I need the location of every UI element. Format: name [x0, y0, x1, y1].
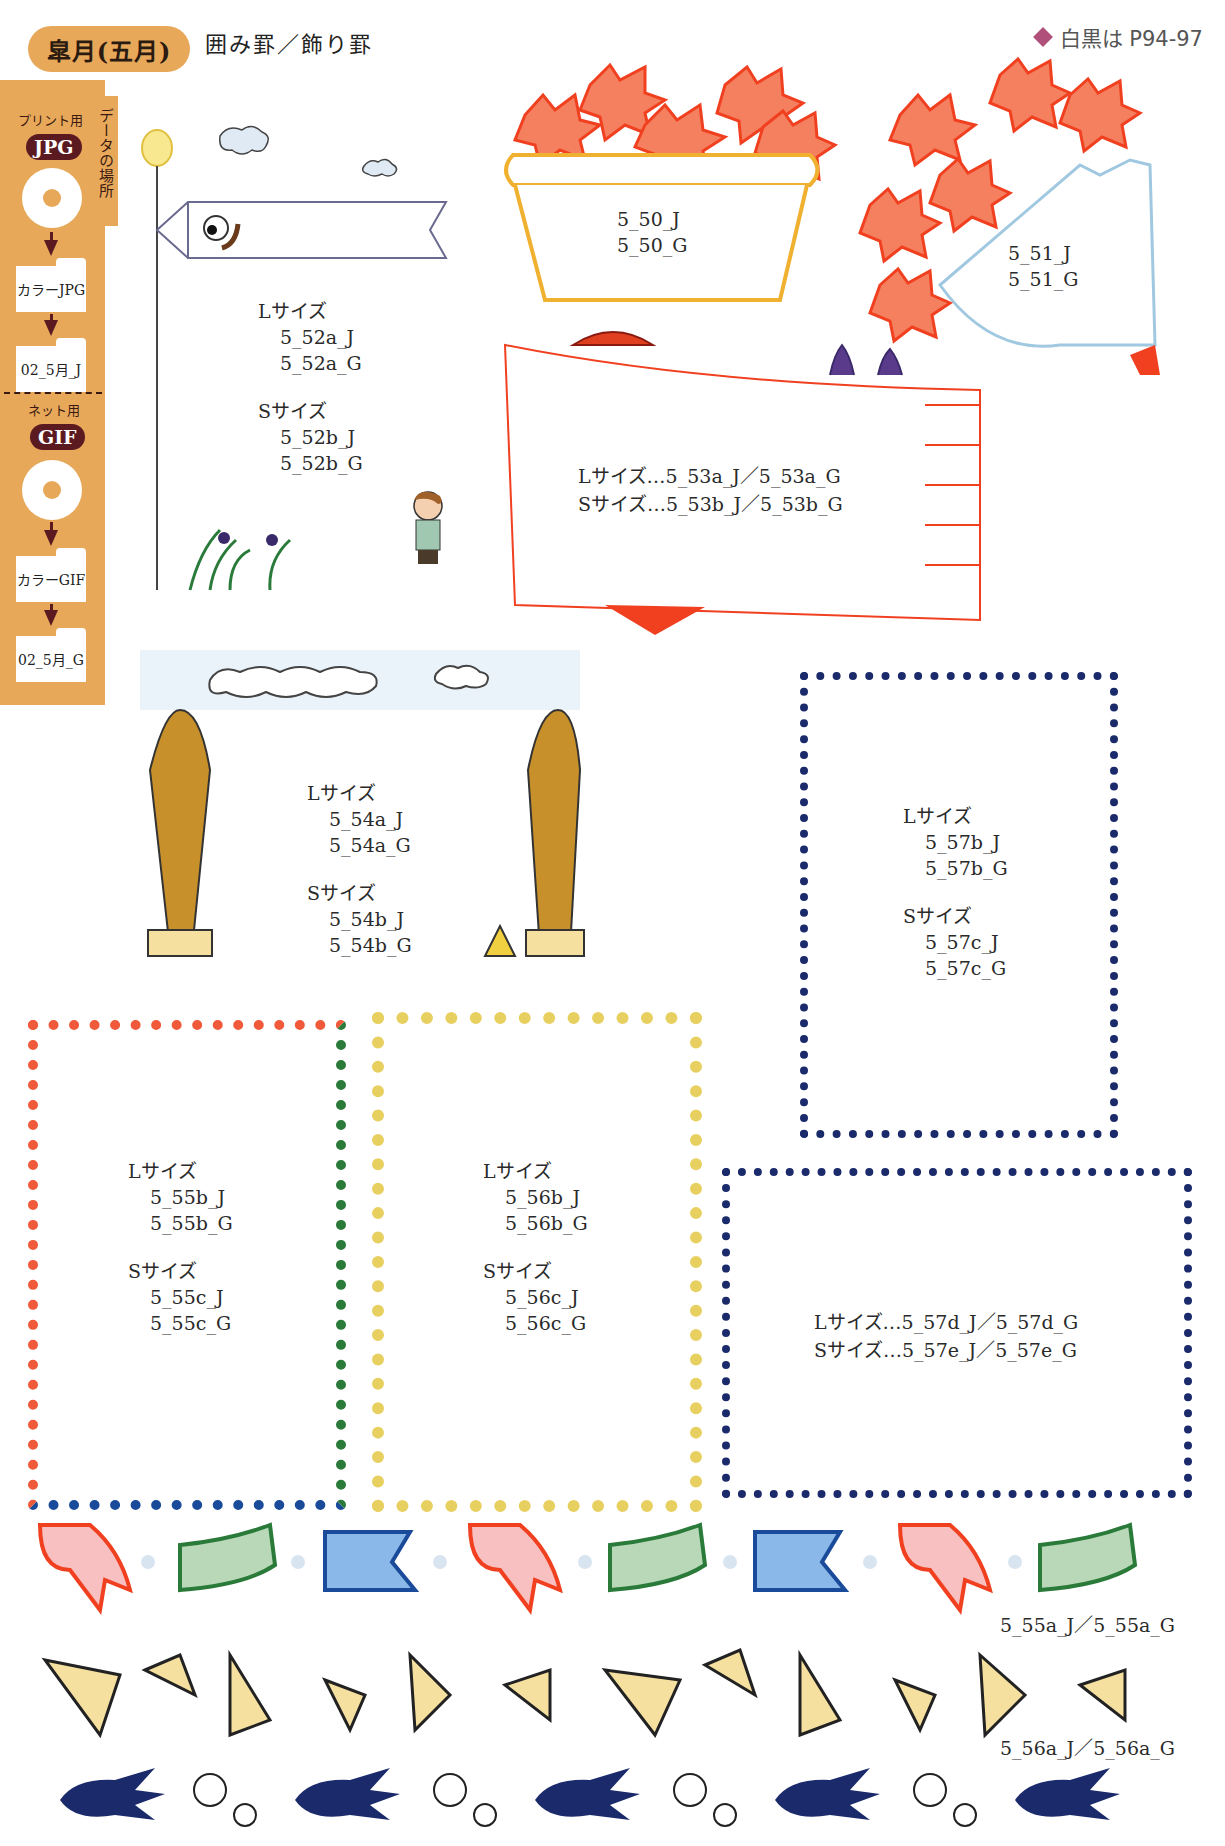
s-size-line: Sサイズ…5_53b_J／5_53b_G [578, 490, 843, 518]
s-size-label: Sサイズ [307, 880, 412, 906]
month-title: 皐月(五月) [28, 26, 190, 72]
l-size-label: Lサイズ [128, 1158, 233, 1184]
page-reference-text: 白黒は P94-97 [1060, 22, 1203, 52]
koinobori-pole-codes: Lサイズ 5_52a_J 5_52a_G Sサイズ 5_52b_J 5_52b_… [258, 298, 363, 476]
s-size-line: Sサイズ…5_57e_J／5_57e_G [814, 1336, 1078, 1364]
s-size-label: Sサイズ [483, 1258, 588, 1284]
arrow-down-icon [44, 610, 58, 626]
folder-label: カラーGIF [17, 569, 85, 589]
jpg-badge: JPG [26, 134, 82, 160]
folder-label: 02_5月_G [18, 649, 84, 669]
boy-figure [414, 492, 442, 564]
file-code: 5_54a_G [307, 832, 412, 858]
carnation-basket-codes: 5_50_J 5_50_G [617, 206, 687, 258]
gif-badge: GIF [30, 424, 85, 450]
folder-color-gif: カラーGIF [16, 556, 86, 602]
swallow-line-border [55, 1760, 1135, 1840]
file-code: 5_56b_G [483, 1210, 588, 1236]
diamond-icon [1033, 27, 1053, 47]
s-size-label: Sサイズ [903, 903, 1008, 929]
file-code: 5_55b_J [128, 1184, 233, 1210]
file-code: 5_54a_J [307, 806, 412, 832]
divider [4, 392, 102, 394]
folder-05-gif: 02_5月_G [16, 636, 86, 682]
page-reference: 白黒は P94-97 [1036, 22, 1203, 52]
file-code: 5_56b_J [483, 1184, 588, 1210]
disc-icon [22, 460, 82, 520]
s-size-label: Sサイズ [128, 1258, 233, 1284]
file-code: 5_57c_J [903, 929, 1008, 955]
s-size-label: Sサイズ [258, 398, 363, 424]
swallow-frame-tall-codes: Lサイズ 5_57b_J 5_57b_G Sサイズ 5_57c_J 5_57c_… [903, 803, 1008, 981]
l-size-label: Lサイズ [307, 780, 412, 806]
arrow-down-icon [44, 320, 58, 336]
file-code: 5_54b_G [307, 932, 412, 958]
folder-color-jpg: カラーJPG [16, 266, 86, 312]
file-code: 5_57c_G [903, 955, 1008, 981]
file-code: 5_56c_J [483, 1284, 588, 1310]
file-code: 5_50_J [617, 206, 687, 232]
file-code: 5_57b_G [903, 855, 1008, 881]
file-code: 5_50_G [617, 232, 687, 258]
bamboo-shoot-codes: Lサイズ 5_54a_J 5_54a_G Sサイズ 5_54b_J 5_54b_… [307, 780, 412, 958]
print-use-label: プリント用 [18, 110, 83, 129]
file-code: 5_56c_G [483, 1310, 588, 1336]
file-code: 5_57b_J [903, 829, 1008, 855]
l-size-line: Lサイズ…5_57d_J／5_57d_G [814, 1308, 1078, 1336]
carnation-bouquet-codes: 5_51_J 5_51_G [1008, 240, 1078, 292]
takenoko-frame-codes: Lサイズ 5_56b_J 5_56b_G Sサイズ 5_56c_J 5_56c_… [483, 1158, 588, 1336]
folder-label: カラーJPG [17, 279, 85, 299]
koinobori-line-border [30, 1520, 1150, 1610]
koinobori-frame-codes: Lサイズ 5_55b_J 5_55b_G Sサイズ 5_55c_J 5_55c_… [128, 1158, 233, 1336]
l-size-label: Lサイズ [483, 1158, 588, 1184]
file-code: 5_55b_G [128, 1210, 233, 1236]
folder-05-jpg: 02_5月_J [16, 346, 86, 392]
disc-icon [22, 168, 82, 228]
big-koinobori-codes: Lサイズ…5_53a_J／5_53a_G Sサイズ…5_53b_J／5_53b_… [578, 462, 843, 518]
l-size-label: Lサイズ [258, 298, 363, 324]
file-code: 5_55c_G [128, 1310, 233, 1336]
folder-label: 02_5月_J [21, 359, 81, 379]
carnation-basket-illustration [485, 55, 840, 305]
file-code: 5_52b_J [258, 424, 363, 450]
file-code: 5_52a_G [258, 350, 363, 376]
file-code: 5_55c_J [128, 1284, 233, 1310]
l-size-label: Lサイズ [903, 803, 1008, 829]
takenoko-line-code: 5_56a_J／5_56a_G [1000, 1733, 1175, 1760]
file-code: 5_51_J [1008, 240, 1078, 266]
koinobori-line-code: 5_55a_J／5_55a_G [1000, 1610, 1175, 1637]
data-location-label: データの場所 [96, 108, 114, 198]
swallow-frame-wide-codes: Lサイズ…5_57d_J／5_57d_G Sサイズ…5_57e_J／5_57e_… [814, 1308, 1078, 1364]
arrow-down-icon [44, 240, 58, 256]
page-subtitle: 囲み罫／飾り罫 [205, 26, 373, 58]
l-size-line: Lサイズ…5_53a_J／5_53a_G [578, 462, 843, 490]
file-code: 5_51_G [1008, 266, 1078, 292]
net-use-label: ネット用 [28, 400, 80, 419]
takenoko-line-border [40, 1640, 1150, 1740]
arrow-down-icon [44, 530, 58, 546]
file-code: 5_52a_J [258, 324, 363, 350]
file-code: 5_54b_J [307, 906, 412, 932]
file-code: 5_52b_G [258, 450, 363, 476]
